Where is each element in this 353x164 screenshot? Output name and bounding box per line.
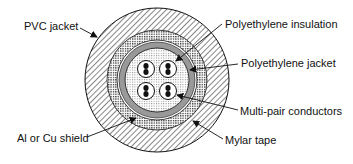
- conductor-pair: [160, 61, 177, 78]
- pvc-jacket-leader: [80, 28, 97, 37]
- label-pe-jacket: Polyethylene jacket: [241, 57, 336, 69]
- label-mylar-tape: Mylar tape: [225, 134, 276, 146]
- label-pe-insulation: Polyethylene insulation: [225, 18, 338, 30]
- conductor-pair: [138, 61, 155, 78]
- label-pvc-jacket: PVC jacket: [24, 20, 78, 32]
- conductor-pair: [138, 83, 155, 100]
- label-shield: Al or Cu shield: [17, 132, 89, 144]
- conductor-pair: [160, 83, 177, 100]
- pe-insulation-layer: [125, 48, 189, 112]
- label-conductors: Multi-pair conductors: [240, 105, 342, 117]
